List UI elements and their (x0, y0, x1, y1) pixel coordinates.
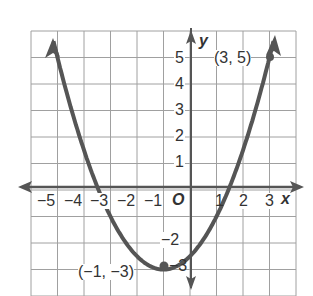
point-3-5 (266, 53, 274, 61)
x-tick-label: −1 (143, 193, 163, 209)
x-tick-label: −3 (89, 193, 109, 209)
x-tick-label: 1 (214, 193, 225, 209)
y-tick-label: 3 (174, 102, 185, 118)
y-tick-label: 4 (174, 76, 185, 92)
right-arrowhead (266, 35, 281, 56)
point-label-3-5: (3, 5) (214, 50, 251, 66)
x-tick-label: −5 (36, 193, 56, 209)
x-axis-label: x (281, 191, 290, 207)
y-tick-label: 1 (174, 154, 185, 170)
x-tick-label: 2 (238, 193, 249, 209)
y-tick-label: −2 (160, 232, 180, 248)
y-tick-label: 5 (174, 50, 185, 66)
vertex-label: (−1, −3) (78, 264, 134, 280)
y-axis-label: y (199, 33, 208, 49)
x-tick-label: −2 (116, 193, 136, 209)
coordinate-plane (0, 0, 313, 296)
x-tick-label: −4 (63, 193, 83, 209)
grid-lines (31, 31, 296, 296)
y-tick-label: −3 (168, 258, 188, 274)
x-tick-label: 3 (264, 193, 275, 209)
origin-label: O (172, 192, 184, 208)
y-tick-label: 2 (174, 128, 185, 144)
